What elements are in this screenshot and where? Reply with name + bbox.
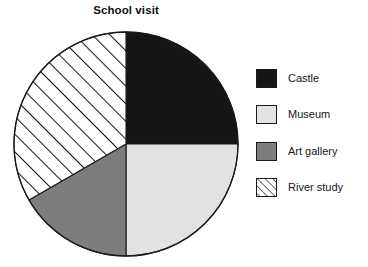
pie-chart-figure: School visit: [0, 0, 368, 267]
legend-label-castle: Castle: [288, 73, 319, 84]
legend-swatch-museum-icon: [256, 105, 277, 124]
legend-swatch-art-gallery-icon: [256, 142, 277, 161]
legend-item-art-gallery[interactable]: Art gallery: [256, 141, 368, 161]
legend-label-river-study: River study: [288, 182, 343, 193]
legend-label-art-gallery: Art gallery: [288, 146, 338, 157]
chart-legend: Castle Museum Art gallery River study: [256, 68, 368, 198]
pie-slice-museum[interactable]: [126, 144, 238, 256]
legend-item-museum[interactable]: Museum: [256, 105, 368, 125]
legend-swatch-castle-icon: [256, 69, 277, 88]
pie-slice-castle[interactable]: [126, 32, 238, 144]
legend-label-museum: Museum: [288, 109, 330, 120]
legend-item-river-study[interactable]: River study: [256, 178, 368, 198]
legend-item-castle[interactable]: Castle: [256, 68, 368, 88]
pie-chart-svg: [12, 26, 242, 264]
legend-swatch-river-study-icon: [256, 178, 277, 197]
pie-chart-plot-area: [12, 26, 242, 264]
chart-title: School visit: [0, 4, 252, 16]
